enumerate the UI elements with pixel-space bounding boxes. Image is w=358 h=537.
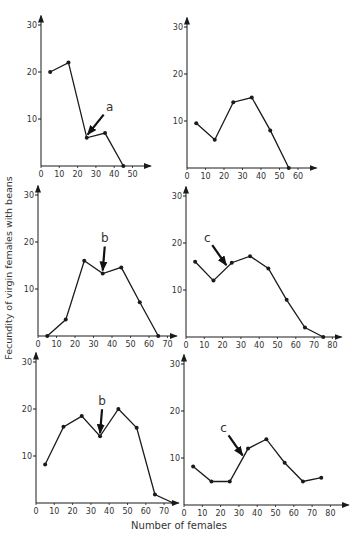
data-point <box>303 326 307 330</box>
data-point <box>246 447 250 451</box>
x-tick-label: 0 <box>181 509 186 518</box>
x-tick-label: 50 <box>127 170 137 179</box>
y-tick-label: 10 <box>27 115 37 124</box>
y-tick-label: 10 <box>172 286 182 295</box>
x-tick-label: 70 <box>307 509 317 518</box>
data-point <box>82 259 86 263</box>
data-point <box>171 501 175 505</box>
panel-middle-right: 10203001020304050607080c <box>172 187 342 350</box>
annotation-label: a <box>106 100 113 114</box>
data-point <box>103 131 107 135</box>
x-tick-label: 0 <box>184 172 189 181</box>
annotation-label: c <box>204 231 211 245</box>
data-point <box>283 461 287 465</box>
chart-canvas: 10203001020304050a1020300102030405060102… <box>0 0 358 537</box>
y-tick-label: 30 <box>173 23 183 32</box>
panel-top-right: 1020300102030405060 <box>173 18 317 181</box>
y-tick-label: 20 <box>172 239 182 248</box>
x-tick-label: 30 <box>91 170 101 179</box>
data-point <box>45 334 49 338</box>
x-tick-label: 0 <box>38 170 43 179</box>
annotation-arrow <box>229 435 243 455</box>
x-tick-label: 60 <box>289 509 299 518</box>
data-series-line <box>50 63 123 166</box>
x-tick-label: 50 <box>274 172 284 181</box>
data-point <box>231 100 235 104</box>
annotation-arrow <box>103 246 105 270</box>
data-point <box>98 434 102 438</box>
data-point <box>138 300 142 304</box>
x-tick-label: 50 <box>125 340 135 349</box>
data-point <box>64 318 68 322</box>
annotation-label: b <box>101 231 109 245</box>
y-tick-label: 10 <box>24 285 34 294</box>
data-point <box>285 298 289 302</box>
data-series-line <box>45 409 173 503</box>
x-tick-label: 50 <box>270 509 280 518</box>
data-point <box>119 265 123 269</box>
y-tick-label: 20 <box>22 405 32 414</box>
x-tick-label: 20 <box>219 172 229 181</box>
x-tick-label: 30 <box>237 172 247 181</box>
x-tick-label: 30 <box>88 340 98 349</box>
annotation-arrow <box>212 245 226 265</box>
data-point <box>43 462 47 466</box>
x-tick-label: 20 <box>216 509 226 518</box>
x-tick-label: 40 <box>104 507 114 516</box>
x-tick-label: 50 <box>272 341 282 350</box>
data-series-line <box>195 256 323 337</box>
data-point <box>80 414 84 418</box>
x-tick-label: 20 <box>70 340 80 349</box>
x-tick-label: 10 <box>51 340 61 349</box>
x-axis-label: Number of females <box>131 520 227 531</box>
y-tick-label: 30 <box>24 191 34 200</box>
x-tick-label: 10 <box>197 509 207 518</box>
data-point <box>228 480 232 484</box>
y-tick-label: 30 <box>172 192 182 201</box>
y-tick-label: 20 <box>27 68 37 77</box>
x-tick-label: 30 <box>236 341 246 350</box>
x-tick-label: 60 <box>291 341 301 350</box>
x-tick-label: 30 <box>234 509 244 518</box>
data-point <box>264 437 268 441</box>
x-tick-label: 0 <box>35 340 40 349</box>
x-tick-label: 40 <box>254 341 264 350</box>
x-tick-label: 20 <box>218 341 228 350</box>
data-point <box>230 261 234 265</box>
data-point <box>319 476 323 480</box>
y-tick-label: 10 <box>22 452 32 461</box>
data-point <box>156 334 160 338</box>
data-point <box>211 279 215 283</box>
data-point <box>191 464 195 468</box>
y-tick-label: 30 <box>170 360 180 369</box>
x-tick-label: 10 <box>49 507 59 516</box>
annotation-arrow <box>100 409 102 433</box>
data-point <box>209 480 213 484</box>
panel-bottom-left: 102030010203040506070b <box>22 353 179 516</box>
x-tick-label: 0 <box>33 507 38 516</box>
x-tick-label: 40 <box>109 170 119 179</box>
x-tick-label: 10 <box>199 341 209 350</box>
x-tick-label: 30 <box>86 507 96 516</box>
y-tick-label: 20 <box>170 407 180 416</box>
y-tick-label: 30 <box>27 21 37 30</box>
x-tick-label: 50 <box>122 507 132 516</box>
figure: 10203001020304050a1020300102030405060102… <box>0 0 358 537</box>
data-series-line <box>196 98 288 169</box>
panel-top-left: 10203001020304050a <box>27 16 151 179</box>
data-point <box>301 480 305 484</box>
data-point <box>116 407 120 411</box>
data-point <box>193 260 197 264</box>
data-point <box>266 266 270 270</box>
y-tick-label: 30 <box>22 358 32 367</box>
data-point <box>66 61 70 65</box>
y-tick-label: 20 <box>173 70 183 79</box>
annotation-label: b <box>98 394 106 408</box>
x-tick-label: 80 <box>327 341 337 350</box>
data-point <box>85 136 89 140</box>
data-point <box>287 166 291 170</box>
x-tick-label: 60 <box>144 340 154 349</box>
data-point <box>213 138 217 142</box>
y-tick-label: 10 <box>173 117 183 126</box>
x-tick-label: 10 <box>54 170 64 179</box>
